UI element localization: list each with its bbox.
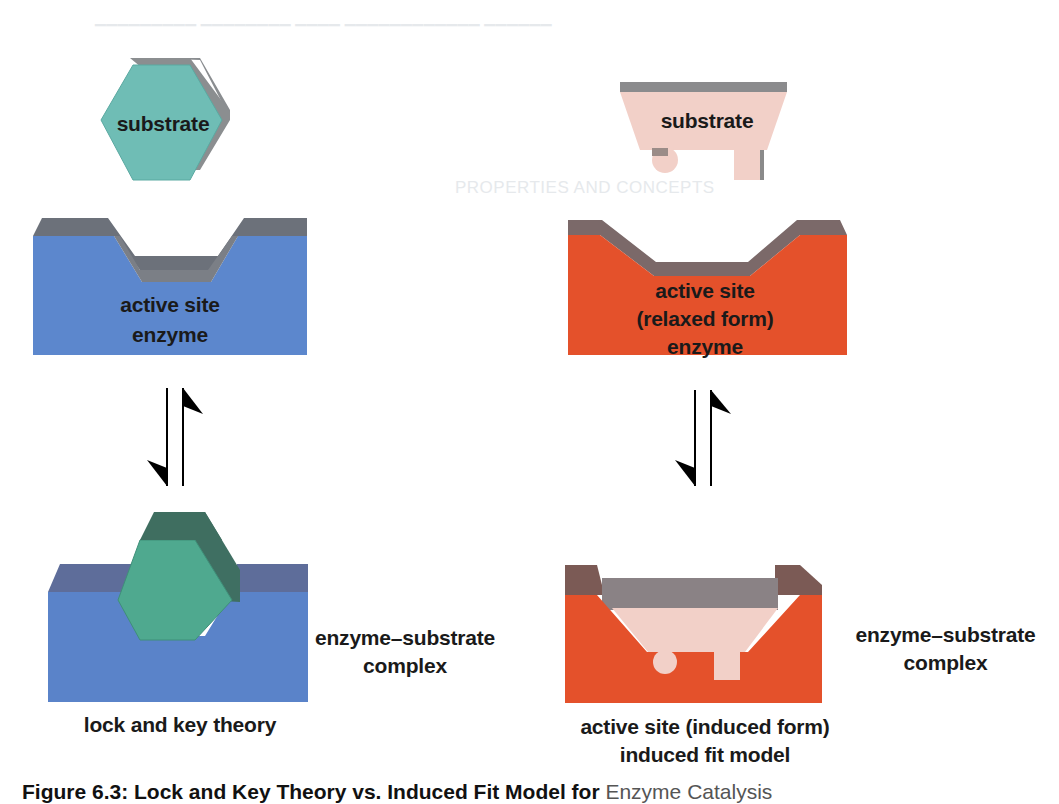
induced-fit-model-label: induced fit model [570,742,840,768]
lock-key-enzyme-label: enzyme [100,322,240,348]
induced-fit-complex-shape [565,565,822,703]
induced-fit-active-site-label: active site [620,278,790,304]
induced-fit-relaxed-form-label: (relaxed form) [620,306,790,332]
induced-fit-substrate-label: substrate [652,108,762,134]
lock-key-active-site-label: active site [100,292,240,318]
figure-caption-sub: Enzyme Catalysis [605,780,772,803]
lock-key-complex-label-line1: enzyme–substrate [310,625,500,651]
figure-caption-main: Figure 6.3: Lock and Key Theory vs. Indu… [22,780,600,803]
induced-fit-enzyme-label: enzyme [620,334,790,360]
lock-key-substrate-label: substrate [108,111,218,137]
equilibrium-arrows-icon [147,388,203,486]
figure-caption: Figure 6.3: Lock and Key Theory vs. Indu… [22,780,772,804]
equilibrium-arrows-icon [675,390,731,486]
lock-key-complex-label-line2: complex [310,653,500,679]
induced-fit-complex-label-line1: enzyme–substrate [848,622,1043,648]
induced-fit-complex-label-line2: complex [848,650,1043,676]
induced-fit-induced-form-label: active site (induced form) [570,714,840,740]
lock-key-model-label: lock and key theory [60,712,300,738]
lock-key-complex-shape [48,512,308,702]
